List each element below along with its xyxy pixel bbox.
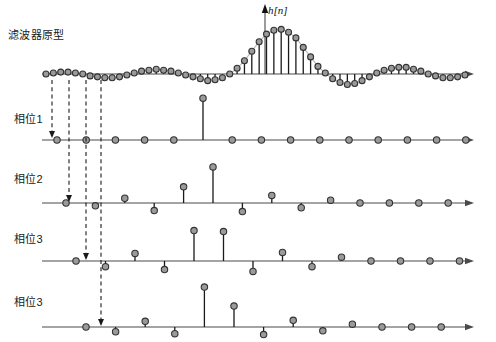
sample-marker (381, 67, 387, 73)
sample-marker (352, 81, 358, 87)
sample-marker (322, 70, 328, 76)
sample-marker (287, 137, 293, 143)
sample-marker (83, 324, 89, 330)
sample-marker (63, 200, 69, 206)
sample-marker (234, 65, 240, 71)
sample-marker (231, 303, 237, 309)
phase-3-label: 相位3 (14, 230, 43, 246)
sample-marker (249, 48, 255, 54)
sample-marker (124, 72, 130, 78)
sample-marker (212, 77, 218, 83)
phase-2-stems (63, 164, 452, 215)
sample-marker (403, 64, 409, 70)
down-arrow-icon (49, 131, 55, 138)
sample-marker (197, 76, 203, 82)
sample-marker (65, 69, 71, 75)
sample-marker (374, 70, 380, 76)
sample-marker (416, 200, 422, 206)
sample-marker (338, 254, 344, 260)
sample-marker (404, 137, 410, 143)
sample-marker (112, 329, 118, 335)
sample-marker (87, 73, 93, 79)
sample-marker (438, 324, 444, 330)
sample-marker (264, 31, 270, 37)
sample-marker (278, 26, 284, 32)
phase-1-stems (54, 95, 469, 143)
sample-marker (191, 227, 197, 233)
sample-marker (161, 266, 167, 272)
sample-marker (368, 258, 374, 264)
sample-marker (183, 72, 189, 78)
sample-marker (433, 73, 439, 79)
sample-marker (180, 184, 186, 190)
phase-row-3 (42, 227, 474, 274)
sample-marker (151, 207, 157, 213)
sample-marker (102, 75, 108, 81)
down-arrow-icon (83, 253, 89, 260)
sample-marker (172, 330, 178, 336)
sample-marker (359, 78, 365, 84)
sample-marker (290, 317, 296, 323)
sample-marker (227, 71, 233, 77)
sample-marker (293, 35, 299, 41)
sample-marker (330, 76, 336, 82)
sample-marker (279, 249, 285, 255)
sample-marker (112, 137, 118, 143)
axis-arrow-icon (465, 258, 474, 264)
sample-marker (408, 324, 414, 330)
phase-1-label: 相位1 (14, 110, 43, 126)
sample-marker (445, 200, 451, 206)
sample-marker (375, 137, 381, 143)
envelope-curve (46, 29, 465, 84)
phase-row-2 (42, 164, 474, 215)
sample-marker (171, 137, 177, 143)
sample-marker (349, 321, 355, 327)
sample-marker (456, 258, 462, 264)
sample-marker (229, 137, 235, 143)
sample-marker (210, 164, 216, 170)
sample-marker (298, 205, 304, 211)
sample-marker (256, 39, 262, 45)
sample-marker (109, 75, 115, 81)
polyphase-decomposition-figure (0, 0, 496, 342)
sample-marker (139, 68, 145, 74)
sample-marker (366, 74, 372, 80)
phase-2-axis (42, 200, 474, 206)
sample-marker (161, 67, 167, 73)
sample-marker (286, 29, 292, 35)
sample-marker (132, 250, 138, 256)
prototype-stems (43, 26, 468, 87)
sample-marker (300, 44, 306, 50)
sample-marker (92, 203, 98, 209)
sample-marker (463, 137, 469, 143)
phase-3-stems (73, 227, 463, 274)
sample-marker (427, 258, 433, 264)
sample-marker (102, 264, 108, 270)
sample-marker (200, 95, 206, 101)
down-arrow-icon (98, 319, 104, 326)
prototype-filter-plot (42, 4, 474, 87)
sample-marker (440, 75, 446, 81)
sample-marker (122, 195, 128, 201)
sample-marker (418, 68, 424, 74)
signal-label-hn: h[n] (268, 4, 288, 16)
sample-marker (175, 70, 181, 76)
sample-marker (239, 208, 245, 214)
sample-marker (73, 258, 79, 264)
phase-row-4 (42, 284, 474, 338)
sample-marker (411, 66, 417, 72)
sample-marker (388, 65, 394, 71)
prototype-filter-label: 滤波器原型 (8, 26, 65, 42)
sample-marker (327, 197, 333, 203)
sample-marker (141, 137, 147, 143)
sample-marker (337, 80, 343, 86)
figure-canvas (0, 0, 496, 342)
sample-marker (260, 331, 266, 337)
phase-2-label: 相位2 (14, 170, 43, 186)
sample-marker (346, 137, 352, 143)
sample-marker (317, 137, 323, 143)
sample-marker (80, 71, 86, 77)
sample-marker (357, 200, 363, 206)
sample-marker (168, 68, 174, 74)
sample-marker (131, 70, 137, 76)
